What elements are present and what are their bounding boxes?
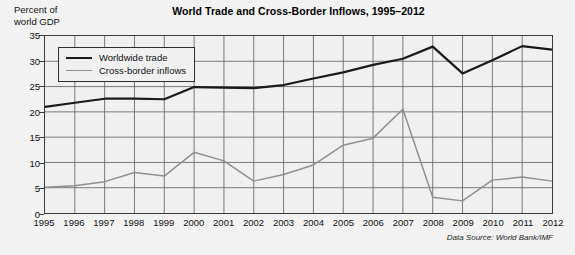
chart-legend: Worldwide tradeCross-border inflows	[58, 47, 195, 82]
series-line	[45, 109, 552, 201]
y-axis-tick-label: 25	[2, 81, 40, 92]
y-axis-tick-label: 15	[2, 132, 40, 143]
y-axis-tick-label: 35	[2, 30, 40, 41]
legend-entry: Cross-border inflows	[66, 64, 186, 77]
legend-swatch-icon	[66, 70, 92, 71]
y-axis-tick-label: 5	[2, 183, 40, 194]
x-axis-tick-label: 2012	[533, 217, 573, 228]
y-axis-tick-group: 05101520253035	[0, 35, 40, 214]
legend-label: Worldwide trade	[99, 52, 167, 63]
legend-label: Cross-border inflows	[99, 65, 186, 76]
y-axis-tick-mark	[39, 214, 44, 215]
y-axis-tick-label: 30	[2, 55, 40, 66]
x-axis-tick-group: 1995199619971998199920002001200220032004…	[44, 216, 553, 232]
chart-figure: Percent of world GDP World Trade and Cro…	[0, 0, 575, 255]
legend-swatch-icon	[66, 57, 92, 59]
y-axis-tick-label: 10	[2, 157, 40, 168]
legend-entry: Worldwide trade	[66, 51, 186, 64]
source-note: Data Source: World Bank/IMF	[447, 233, 553, 242]
chart-title: World Trade and Cross-Border Inflows, 19…	[44, 5, 553, 17]
y-axis-tick-label: 20	[2, 106, 40, 117]
